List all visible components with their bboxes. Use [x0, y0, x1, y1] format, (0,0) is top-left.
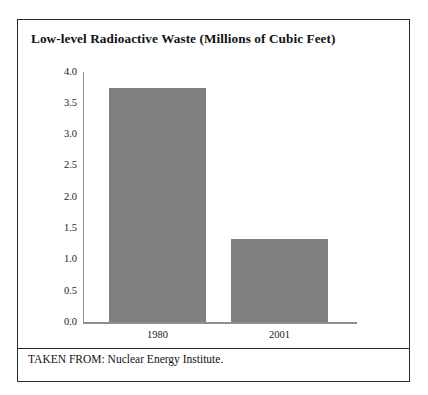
- clipped-text-above-figure: [40, 0, 240, 5]
- plot-area: 4.0 3.5 3.0 2.5 2.0 1.5 1.0 0.5 0.0 1980…: [18, 20, 411, 383]
- x-tick-1980: 1980: [109, 329, 206, 340]
- source-divider: [18, 348, 409, 349]
- bar-2001: [231, 239, 328, 322]
- y-tick-0-0: 0.0: [38, 316, 77, 328]
- source-label: TAKEN FROM: Nuclear Energy Institute.: [28, 353, 223, 365]
- y-tick-3-0: 3.0: [38, 128, 77, 140]
- y-tick-1-5: 1.5: [38, 222, 77, 234]
- y-tick-2-5: 2.5: [38, 159, 77, 171]
- y-tick-4-0: 4.0: [38, 66, 77, 78]
- figure-box: Low-level Radioactive Waste (Millions of…: [17, 19, 410, 382]
- y-tick-1-0: 1.0: [38, 253, 77, 265]
- y-tick-2-0: 2.0: [38, 191, 77, 203]
- bar-1980: [109, 88, 206, 322]
- x-tick-2001: 2001: [231, 329, 328, 340]
- x-axis-line: [83, 322, 357, 324]
- y-tick-0-5: 0.5: [38, 285, 77, 297]
- y-axis-line: [83, 72, 84, 323]
- y-tick-3-5: 3.5: [38, 97, 77, 109]
